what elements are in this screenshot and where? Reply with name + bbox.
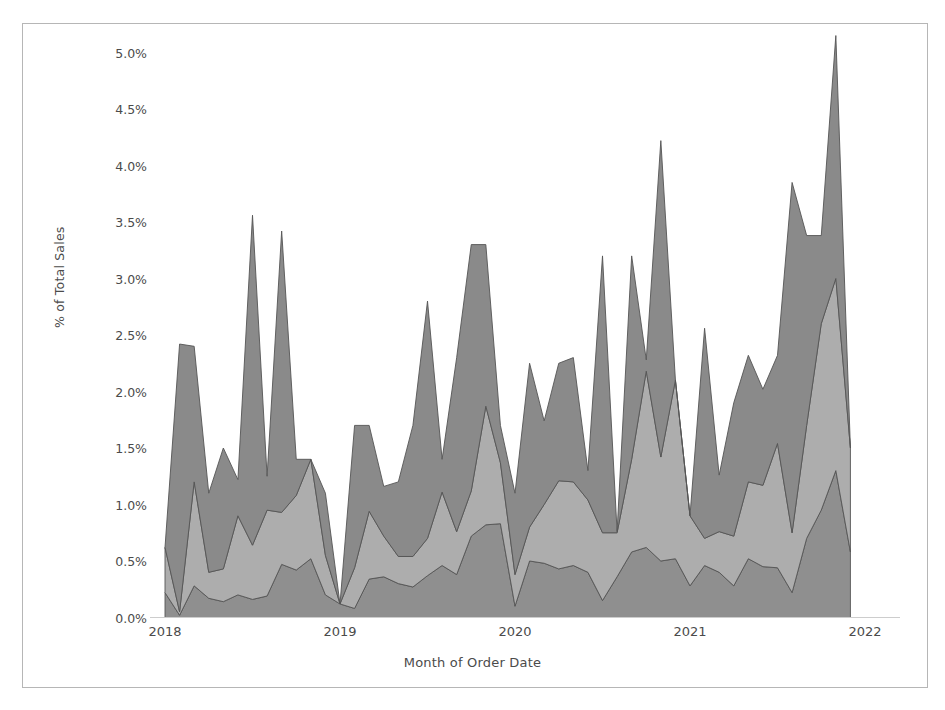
y-tick-label: 1.0% <box>85 497 147 512</box>
x-tick-label: 2019 <box>323 624 356 639</box>
y-tick-label: 0.5% <box>85 554 147 569</box>
chart-stage: 0.0%0.5%1.0%1.5%2.0%2.5%3.0%3.5%4.0%4.5%… <box>0 0 945 710</box>
y-tick-label: 3.0% <box>85 271 147 286</box>
x-tick-label: 2018 <box>148 624 181 639</box>
y-axis-title: % of Total Sales <box>52 128 67 328</box>
x-tick-label: 2022 <box>848 624 881 639</box>
y-tick-label: 5.0% <box>85 45 147 60</box>
x-axis-title: Month of Order Date <box>0 655 945 670</box>
y-tick-label: 1.5% <box>85 441 147 456</box>
area-series-group <box>165 36 850 618</box>
y-tick-label: 3.5% <box>85 215 147 230</box>
y-axis-tick-labels: 0.0%0.5%1.0%1.5%2.0%2.5%3.0%3.5%4.0%4.5%… <box>85 0 147 710</box>
x-tick-label: 2021 <box>673 624 706 639</box>
y-tick-label: 4.0% <box>85 158 147 173</box>
y-tick-label: 4.5% <box>85 102 147 117</box>
y-tick-label: 2.5% <box>85 328 147 343</box>
y-tick-label: 2.0% <box>85 384 147 399</box>
y-tick-label: 0.0% <box>85 610 147 625</box>
x-tick-label: 2020 <box>498 624 531 639</box>
